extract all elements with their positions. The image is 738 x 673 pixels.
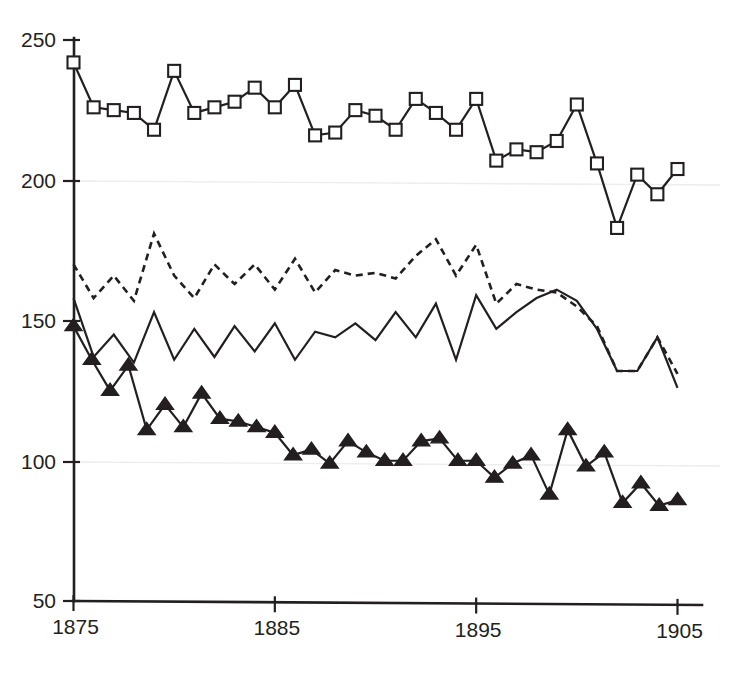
x-tick-label-1905: 1905	[656, 619, 703, 642]
data-point-marker	[431, 431, 448, 443]
y-tick-label-150: 150	[21, 309, 56, 332]
data-point-marker	[68, 56, 80, 68]
data-point-marker	[168, 65, 180, 77]
data-point-marker	[450, 124, 462, 136]
series-path-open-square-series	[74, 62, 678, 228]
y-tick-labels: 50100150200250	[21, 28, 56, 612]
data-point-marker	[430, 107, 442, 119]
data-point-marker	[390, 124, 402, 136]
data-point-marker	[148, 124, 160, 136]
data-point-marker	[410, 93, 422, 105]
data-point-marker	[108, 104, 120, 116]
gridline-200	[73, 181, 720, 185]
data-point-marker	[349, 104, 361, 116]
data-point-marker	[504, 456, 521, 468]
data-point-marker	[596, 445, 613, 457]
series-layer	[65, 56, 686, 510]
data-point-marker	[88, 101, 100, 113]
data-point-marker	[611, 222, 623, 234]
data-point-marker	[490, 155, 502, 167]
y-tick-label-100: 100	[21, 450, 56, 473]
data-point-marker	[229, 96, 241, 108]
chart-container: 50100150200250 1875188518951905	[0, 0, 738, 673]
series-path-filled-triangle-series	[74, 326, 678, 506]
series-filled-triangle-series	[65, 319, 686, 511]
x-tick-label-1875: 1875	[52, 615, 99, 638]
x-tick-labels: 1875188518951905	[52, 615, 703, 642]
data-point-marker	[559, 422, 576, 434]
data-point-marker	[510, 143, 522, 155]
x-tick-label-1885: 1885	[253, 616, 300, 639]
data-point-marker	[208, 101, 220, 113]
line-chart: 50100150200250 1875188518951905	[0, 0, 738, 673]
data-point-marker	[249, 82, 261, 94]
series-open-square-series	[68, 56, 684, 234]
data-point-marker	[211, 411, 228, 423]
data-point-marker	[329, 127, 341, 139]
data-point-marker	[157, 397, 174, 409]
data-point-marker	[309, 129, 321, 141]
y-tick-label-200: 200	[21, 169, 56, 192]
data-point-marker	[651, 188, 663, 200]
data-point-marker	[468, 453, 485, 465]
data-point-marker	[358, 445, 375, 457]
data-point-marker	[470, 93, 482, 105]
x-axis-line	[73, 601, 702, 605]
x-tick-label-1895: 1895	[455, 618, 502, 641]
data-point-marker	[591, 157, 603, 169]
series-dashed-line-series	[74, 234, 678, 374]
data-point-marker	[102, 383, 119, 395]
y-tick-label-50: 50	[33, 589, 56, 612]
data-point-marker	[551, 135, 563, 147]
y-tick-label-250: 250	[21, 28, 56, 51]
data-point-marker	[128, 107, 140, 119]
data-point-marker	[571, 99, 583, 111]
data-point-marker	[541, 487, 558, 499]
data-point-marker	[289, 79, 301, 91]
data-point-marker	[669, 493, 686, 505]
data-point-marker	[188, 107, 200, 119]
data-point-marker	[138, 422, 155, 434]
data-point-marker	[531, 146, 543, 158]
data-point-marker	[672, 163, 684, 175]
data-point-marker	[269, 101, 281, 113]
data-point-marker	[193, 386, 210, 398]
series-solid-line-series	[74, 290, 678, 388]
series-path-dashed-line-series	[74, 234, 678, 374]
data-point-marker	[83, 352, 100, 364]
data-point-marker	[632, 476, 649, 488]
series-path-solid-line-series	[74, 290, 678, 388]
data-point-marker	[376, 453, 393, 465]
data-point-marker	[523, 448, 540, 460]
data-point-marker	[303, 442, 320, 454]
data-point-marker	[370, 110, 382, 122]
data-point-marker	[631, 169, 643, 181]
data-point-marker	[340, 434, 357, 446]
